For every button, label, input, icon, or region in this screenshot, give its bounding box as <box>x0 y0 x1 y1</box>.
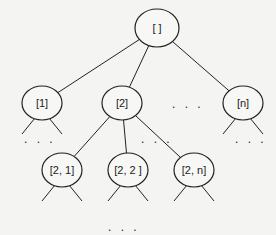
stub-branch-n21-right <box>69 185 82 201</box>
node-label: [1] <box>36 97 48 109</box>
node-label: [2] <box>116 97 128 109</box>
edge-n2-n21 <box>74 117 110 157</box>
subtree-ellipsis-nn: . . . <box>235 132 267 146</box>
tree-svg: [ ][1][2][n][2, 1][2, 2 ][2, n] . . . . … <box>0 0 276 235</box>
edge-root-nn <box>172 42 229 91</box>
tree-diagram: [ ][1][2][n][2, 1][2, 2 ][2, n] . . . . … <box>0 0 276 235</box>
tree-node-nn: [n] <box>223 86 263 120</box>
subtree-ellipsis-n1: . . . <box>24 132 56 146</box>
edge-n2-n22 <box>124 120 127 153</box>
node-label: [2, 2 ] <box>114 164 142 176</box>
tree-node-n22: [2, 2 ] <box>108 153 148 187</box>
node-label: [ ] <box>152 22 161 34</box>
edge-root-n2 <box>129 46 148 88</box>
tree-node-n2n: [2, n] <box>174 153 214 187</box>
node-label: [2, n] <box>182 164 206 176</box>
tree-node-root: [ ] <box>135 9 179 47</box>
stub-branch-n21-left <box>42 185 55 201</box>
tree-node-n2: [2] <box>102 86 142 120</box>
bottom-ellipsis: . . . <box>108 220 140 234</box>
stub-branch-n22-right <box>135 185 148 201</box>
tree-node-n21: [2, 1] <box>42 153 82 187</box>
stub-branch-n2n-right <box>201 185 214 201</box>
tree-node-n1: [1] <box>22 86 62 120</box>
node-label: [n] <box>237 97 249 109</box>
level1-ellipsis: . . . <box>172 97 204 111</box>
node-label: [2, 1] <box>50 164 74 176</box>
stub-branch-n22-left <box>108 185 121 201</box>
level2-ellipsis: . . . <box>141 132 173 146</box>
stub-branch-n2n-left <box>174 185 187 201</box>
edge-root-n1 <box>58 39 140 92</box>
